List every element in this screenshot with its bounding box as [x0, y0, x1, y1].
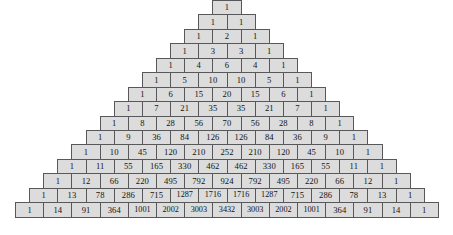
pascal-cell: 924 [212, 173, 241, 188]
pascal-cell: 3432 [212, 202, 241, 217]
pascal-cell: 35 [198, 101, 227, 116]
pascal-cell: 1 [128, 87, 157, 102]
pascal-cell: 12 [353, 173, 382, 188]
pascal-cell: 56 [241, 116, 270, 131]
pascal-row: 1126622049579292479249522066121 [0, 173, 453, 188]
pascal-cell: 66 [325, 173, 354, 188]
pascal-cell: 120 [269, 144, 298, 159]
pascal-row: 121 [0, 29, 453, 44]
pascal-cell: 715 [283, 188, 312, 203]
pascal-cell: 364 [325, 202, 354, 217]
pascal-cell: 45 [128, 144, 157, 159]
pascal-cell: 10 [198, 72, 227, 87]
pascal-cell: 2002 [156, 202, 185, 217]
pascal-cell: 3003 [241, 202, 270, 217]
pascal-cell: 20 [212, 87, 241, 102]
pascal-cell: 7 [142, 101, 171, 116]
pascal-cell: 1 [227, 14, 256, 29]
pascal-row: 14641 [0, 58, 453, 73]
pascal-cell: 120 [156, 144, 185, 159]
pascal-cell: 12 [71, 173, 100, 188]
pascal-cell: 286 [311, 188, 340, 203]
pascal-row: 18285670562881 [0, 116, 453, 131]
pascal-cell: 14 [382, 202, 411, 217]
pascal-cell: 1 [71, 144, 100, 159]
pascal-cell: 6 [156, 87, 185, 102]
pascal-row: 1 [0, 0, 453, 15]
pascal-cell: 55 [114, 159, 143, 174]
pascal-cell: 1 [382, 173, 411, 188]
pascal-cell: 1 [57, 159, 86, 174]
pascal-cell: 126 [227, 130, 256, 145]
pascal-cell: 9 [114, 130, 143, 145]
pascal-cell: 2002 [269, 202, 298, 217]
pascal-cell: 330 [170, 159, 199, 174]
pascal-row: 1149136410012002300334323003200210013649… [0, 202, 453, 217]
pascal-row: 172135352171 [0, 101, 453, 116]
pascal-cell: 252 [212, 144, 241, 159]
pascal-cell: 11 [86, 159, 115, 174]
pascal-cell: 36 [283, 130, 312, 145]
pascal-cell: 364 [100, 202, 129, 217]
pascal-cell: 286 [114, 188, 143, 203]
pascal-cell: 1 [367, 159, 396, 174]
pascal-cell: 84 [170, 130, 199, 145]
pascal-cell: 210 [184, 144, 213, 159]
pascal-cell: 126 [198, 130, 227, 145]
pascal-cell: 5 [255, 72, 284, 87]
pascal-cell: 1716 [198, 188, 227, 203]
pascals-triangle: 1111211331146411510105116152015611721353… [0, 0, 453, 235]
pascal-cell: 165 [283, 159, 312, 174]
pascal-cell: 495 [156, 173, 185, 188]
pascal-cell: 330 [255, 159, 284, 174]
pascal-cell: 1 [198, 14, 227, 29]
pascal-cell: 7 [283, 101, 312, 116]
pascal-cell: 1 [43, 173, 72, 188]
pascal-row: 193684126126843691 [0, 130, 453, 145]
pascal-cell: 10 [227, 72, 256, 87]
pascal-row: 1115516533046246233016555111 [0, 159, 453, 174]
pascal-cell: 9 [311, 130, 340, 145]
pascal-row: 11378286715128717161716128771528678131 [0, 188, 453, 203]
pascal-cell: 13 [367, 188, 396, 203]
pascal-cell: 15 [241, 87, 270, 102]
pascal-cell: 1716 [227, 188, 256, 203]
pascal-cell: 1 [241, 29, 270, 44]
pascal-cell: 165 [142, 159, 171, 174]
pascal-row: 1615201561 [0, 87, 453, 102]
pascal-cell: 10 [100, 144, 129, 159]
pascal-cell: 1 [170, 43, 199, 58]
pascal-cell: 792 [184, 173, 213, 188]
pascal-cell: 28 [269, 116, 298, 131]
pascal-cell: 1 [269, 58, 298, 73]
pascal-cell: 1 [142, 72, 171, 87]
pascal-cell: 1 [156, 58, 185, 73]
pascal-cell: 13 [57, 188, 86, 203]
pascal-cell: 15 [184, 87, 213, 102]
pascal-cell: 220 [297, 173, 326, 188]
pascal-cell: 1 [283, 72, 312, 87]
pascal-cell: 495 [269, 173, 298, 188]
pascal-cell: 1 [100, 116, 129, 131]
pascal-row: 1104512021025221012045101 [0, 144, 453, 159]
pascal-cell: 1 [339, 130, 368, 145]
pascal-cell: 78 [86, 188, 115, 203]
pascal-cell: 91 [353, 202, 382, 217]
pascal-cell: 1 [184, 29, 213, 44]
pascal-cell: 56 [184, 116, 213, 131]
pascal-row: 11 [0, 14, 453, 29]
pascal-cell: 45 [297, 144, 326, 159]
pascal-cell: 4 [241, 58, 270, 73]
pascal-cell: 36 [142, 130, 171, 145]
pascal-cell: 462 [227, 159, 256, 174]
pascal-cell: 28 [156, 116, 185, 131]
pascal-cell: 35 [227, 101, 256, 116]
pascal-cell: 3003 [184, 202, 213, 217]
pascal-cell: 462 [198, 159, 227, 174]
pascal-cell: 84 [255, 130, 284, 145]
pascal-cell: 6 [269, 87, 298, 102]
pascal-cell: 1 [29, 188, 58, 203]
pascal-cell: 1 [353, 144, 382, 159]
pascal-cell: 1 [297, 87, 326, 102]
pascal-cell: 1 [212, 0, 241, 15]
